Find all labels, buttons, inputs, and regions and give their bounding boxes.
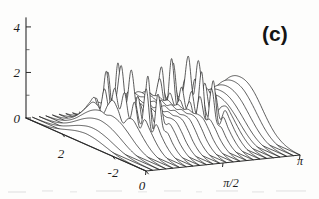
- phase-axis-tick: [146, 171, 147, 175]
- ridge-surface-layer: [26, 56, 300, 171]
- z-axis-tick-label: 4: [14, 20, 21, 35]
- figure-container: 0242-20π/2π (c): [0, 0, 319, 199]
- phase-axis-tick: [223, 163, 224, 167]
- depth-axis-tick-label: 2: [58, 146, 65, 161]
- z-axis-tick-label: 2: [14, 65, 21, 80]
- z-axis-tick-label: 0: [14, 111, 21, 126]
- waterfall-plot-svg: 0242-20π/2π (c): [0, 0, 319, 199]
- scan-noise-artifacts: [8, 190, 306, 193]
- phase-axis-tick-label: π/2: [223, 176, 238, 190]
- depth-axis-tick-label: -2: [108, 165, 119, 180]
- phase-axis-tick-label: π: [297, 154, 304, 168]
- depth-axis-tick-label: 0: [139, 178, 146, 193]
- panel-label: (c): [262, 22, 288, 45]
